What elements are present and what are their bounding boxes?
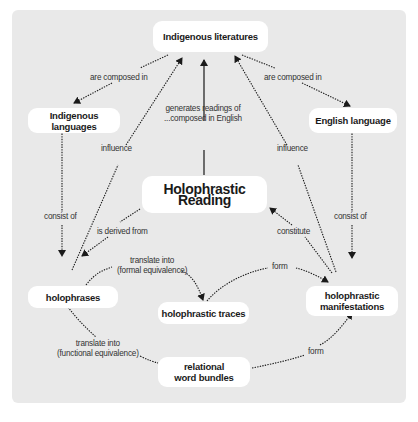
label-line2: (functional equivalence) [57, 349, 139, 359]
label-holophrases-influence: influence [101, 144, 132, 154]
label-traces-form: form [272, 262, 288, 272]
node-label-line2: word bundles [174, 372, 233, 383]
node-label-line1: relational [184, 361, 224, 372]
label-line1: translate into [57, 339, 139, 349]
node-relational-word-bundles: relational word bundles [158, 357, 250, 387]
label-constitute: constitute [277, 227, 310, 237]
label-lit-indlang: are composed in [90, 73, 148, 83]
label-indlang-consist: consist of [44, 212, 77, 222]
node-label-line1: holophrastic [325, 290, 380, 301]
node-label: Holophrastic Reading [142, 184, 267, 206]
label-formal: translate into (formal equivalence) [117, 256, 187, 276]
label-manifest-influence: influence [277, 144, 308, 154]
label-bundles-form: form [308, 347, 324, 357]
label-derived-from: is derived from [97, 227, 148, 237]
label-englang-consist: consist of [334, 212, 367, 222]
label-line1: translate into [117, 256, 187, 266]
node-english-language: English language [309, 108, 397, 133]
edge-manifest-lit [235, 56, 336, 272]
node-label: English language [315, 115, 390, 126]
label-line1: generates readings of [164, 104, 242, 114]
label-functional: translate into (functional equivalence) [57, 339, 139, 359]
node-label-line2: manifestations [320, 301, 384, 312]
label-line2: (formal equivalence) [117, 266, 187, 276]
node-label: Indigenous languages [28, 110, 120, 132]
edge-bundles-manifest [252, 313, 352, 368]
node-label: holophrases [46, 292, 100, 303]
label-lit-englang: are composed in [264, 73, 322, 83]
node-holophrastic-manifestations: holophrastic manifestations [306, 286, 398, 316]
node-indigenous-literatures: Indigenous literatures [153, 21, 268, 52]
label-reading-lit: generates readings of ...composed in Eng… [164, 104, 242, 124]
node-label: Indigenous literatures [163, 31, 258, 42]
node-holophrastic-traces: holophrastic traces [158, 302, 249, 324]
edge-holophrases-lit [72, 58, 182, 270]
label-line2: ...composed in English [164, 114, 242, 124]
node-label: holophrastic traces [162, 308, 246, 319]
node-holophrases: holophrases [28, 286, 118, 308]
node-indigenous-languages: Indigenous languages [28, 108, 120, 133]
node-holophrastic-reading: Holophrastic Reading [142, 176, 267, 213]
